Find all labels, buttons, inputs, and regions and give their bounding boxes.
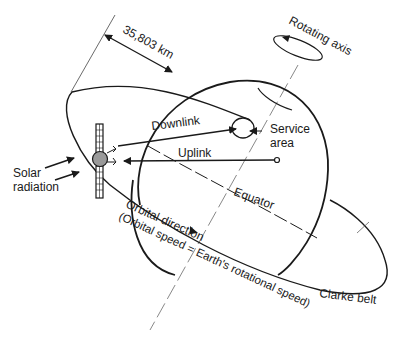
solar-radiation-label-1: Solar — [13, 166, 41, 180]
geostationary-orbit-diagram: 35,803 km Rotating axis Service area Dow… — [0, 0, 403, 345]
solar-radiation-arrows — [45, 158, 79, 180]
service-area-label-2: area — [270, 136, 294, 150]
clarke-belt-label: Clarke belt — [319, 286, 378, 307]
equator-label: Equator — [232, 185, 276, 213]
uplink-line — [124, 160, 274, 161]
downlink-line — [118, 129, 236, 146]
downlink-label: Downlink — [151, 113, 202, 133]
service-area-label-1: Service — [270, 122, 310, 136]
distance-label: 35,803 km — [121, 22, 177, 61]
ground-station-icon — [275, 158, 280, 163]
earth-globe — [132, 81, 328, 275]
orbital-speed-label: (Orbital speed = Earth's rotational spee… — [117, 210, 312, 310]
uplink-label: Uplink — [178, 146, 212, 160]
solar-radiation-label-2: radiation — [13, 180, 59, 194]
service-area — [232, 118, 262, 138]
rotating-axis-label: Rotating axis — [287, 13, 355, 58]
